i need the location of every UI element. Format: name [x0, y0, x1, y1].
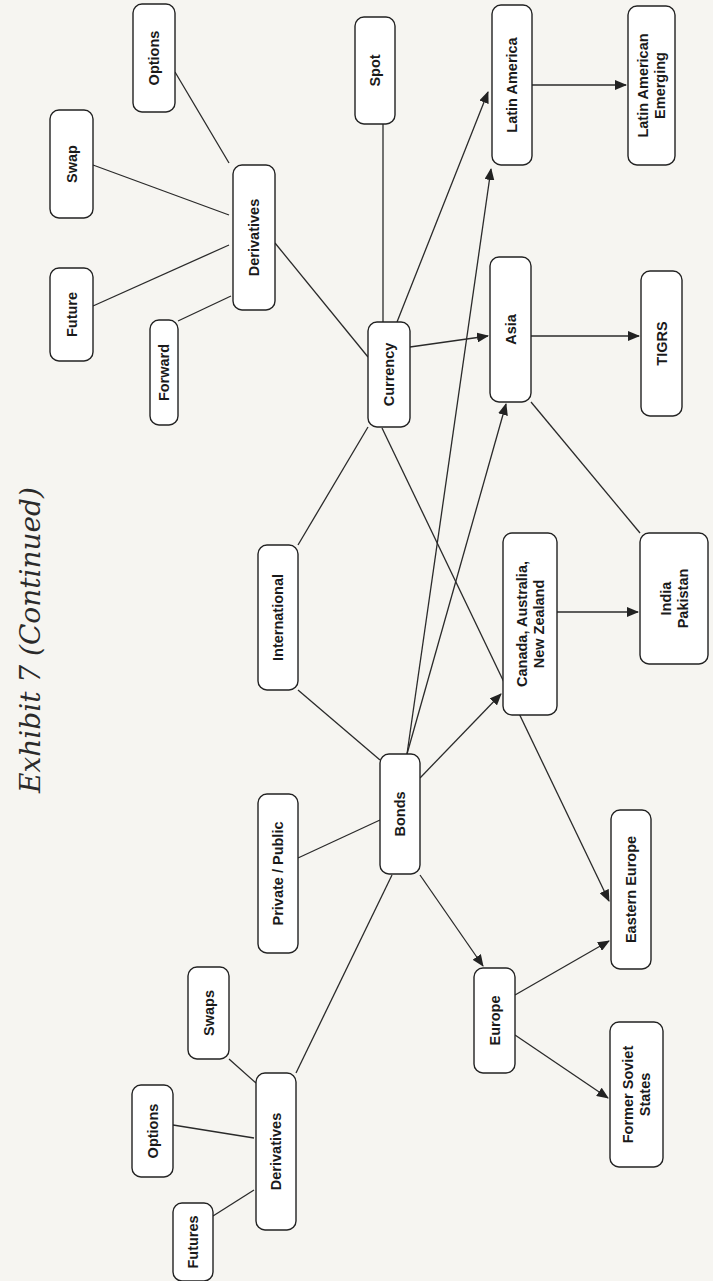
node-india-pakistan: IndiaPakistan [640, 533, 708, 664]
node-label: TIGRS [654, 321, 670, 366]
line-connector [93, 165, 229, 215]
node-label: Futures [185, 1215, 201, 1268]
arrow-connector [407, 404, 506, 754]
node-derivatives-bottom: Derivatives [256, 1073, 296, 1230]
node-swaps: Swaps [188, 967, 229, 1059]
arrow-connector [515, 941, 609, 995]
line-connector [296, 875, 392, 1073]
node-label: Canada, Australia,New Zealand [514, 561, 547, 687]
node-options-bottom: Options [132, 1085, 173, 1177]
node-label: Spot [367, 54, 383, 86]
node-international: International [258, 545, 298, 690]
node-latin-american-emerging: Latin AmericanEmerging [628, 6, 675, 165]
arrow-connector [420, 875, 483, 966]
arrow-connector [420, 694, 501, 778]
node-futures: Futures [173, 1203, 213, 1281]
node-derivatives-top: Derivatives [233, 165, 275, 310]
node-options-top: Options [133, 4, 175, 112]
node-label: Bonds [392, 791, 408, 836]
node-asia: Asia [490, 257, 531, 402]
line-connector [229, 1059, 256, 1083]
line-connector [213, 1190, 254, 1216]
node-future: Future [50, 268, 93, 361]
node-europe: Europe [474, 968, 515, 1073]
node-label: Private / Public [270, 822, 286, 926]
node-swap: Swap [50, 110, 93, 218]
node-label: Future [64, 292, 80, 337]
document-page: Exhibit 7 (Continued) OptionsSwapFutureF… [0, 0, 713, 1281]
node-tigrs: TIGRS [641, 271, 682, 416]
node-forward: Forward [150, 320, 178, 425]
diagram-nodes: OptionsSwapFutureForwardDerivativesSpotC… [50, 4, 708, 1281]
line-connector [173, 1125, 254, 1138]
node-bonds: Bonds [380, 754, 420, 874]
node-label: International [270, 574, 286, 661]
node-canada: Canada, Australia,New Zealand [503, 533, 557, 715]
line-connector [178, 296, 231, 321]
diagram-edges [93, 72, 640, 1216]
node-currency: Currency [368, 322, 410, 427]
line-connector [93, 245, 229, 306]
diagram-canvas: OptionsSwapFutureForwardDerivativesSpotC… [0, 0, 713, 1281]
line-connector [298, 820, 380, 858]
node-label: Options [146, 31, 162, 86]
node-label: Latin America [504, 36, 520, 132]
node-label: Eastern Europe [623, 836, 639, 943]
line-connector [298, 427, 368, 545]
line-connector [531, 402, 640, 533]
node-label: Swap [64, 145, 80, 183]
node-label: Forward [156, 344, 172, 401]
node-label: Options [145, 1104, 161, 1159]
node-spot: Spot [355, 17, 395, 124]
arrow-connector [515, 1035, 608, 1098]
node-label: Europe [487, 996, 503, 1046]
node-eastern-europe: Eastern Europe [611, 810, 651, 969]
line-connector [175, 72, 229, 163]
node-label: Currency [381, 343, 397, 407]
node-label: Asia [503, 313, 519, 345]
line-connector [275, 243, 368, 357]
node-label: Derivatives [246, 199, 262, 276]
node-label: Swaps [201, 990, 217, 1036]
arrow-connector [410, 336, 488, 347]
node-private-public: Private / Public [258, 794, 298, 953]
line-connector [298, 690, 380, 760]
node-latin-america: Latin America [492, 5, 532, 165]
arrow-connector [407, 169, 491, 754]
node-former-soviet-states: Former SovietStates [610, 1022, 663, 1167]
node-label: Derivatives [268, 1113, 284, 1190]
